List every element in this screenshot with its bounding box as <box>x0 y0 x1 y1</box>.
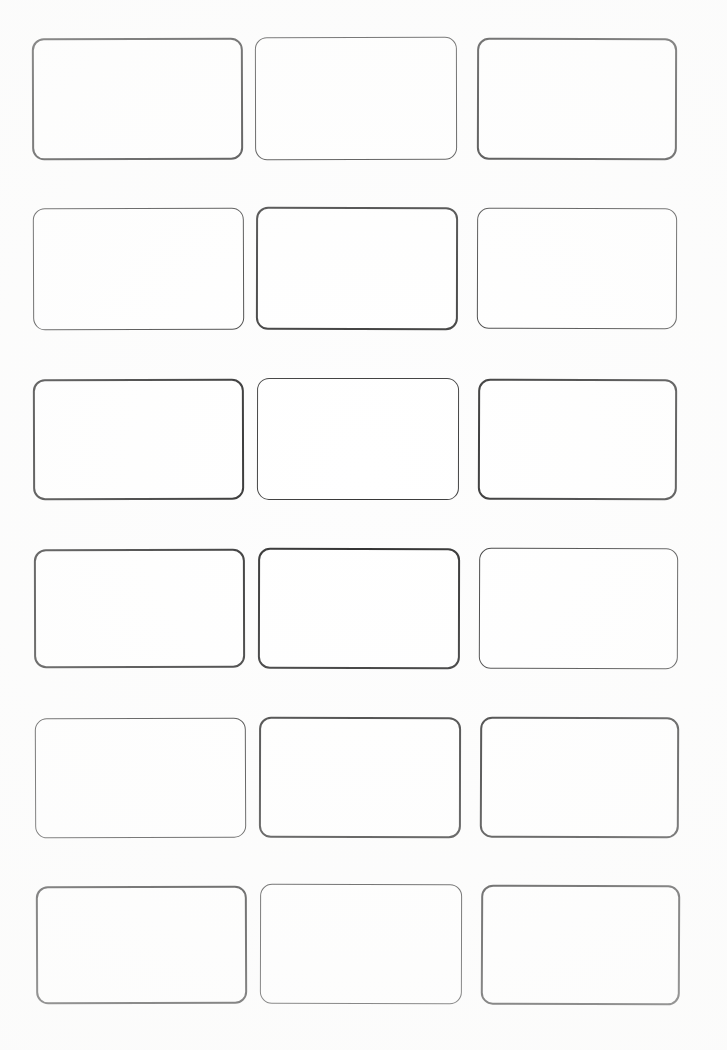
card-cell[interactable] <box>480 717 679 839</box>
card-cell[interactable] <box>36 886 247 1005</box>
card-cell[interactable] <box>32 38 243 161</box>
card-cell[interactable] <box>256 207 458 330</box>
card-cell[interactable] <box>34 549 245 669</box>
card-cell[interactable] <box>258 548 460 669</box>
card-cell[interactable] <box>260 884 462 1004</box>
card-cell[interactable] <box>33 208 244 331</box>
card-cell[interactable] <box>257 378 459 500</box>
card-cell[interactable] <box>481 885 681 1006</box>
card-cell[interactable] <box>255 37 457 160</box>
card-cell[interactable] <box>35 718 246 839</box>
card-cell[interactable] <box>477 208 677 330</box>
card-grid-sheet <box>0 0 727 1050</box>
card-cell[interactable] <box>259 717 461 838</box>
card-cell[interactable] <box>479 548 678 670</box>
card-cell[interactable] <box>477 38 677 160</box>
card-cell[interactable] <box>478 379 677 501</box>
card-cell[interactable] <box>33 379 244 501</box>
